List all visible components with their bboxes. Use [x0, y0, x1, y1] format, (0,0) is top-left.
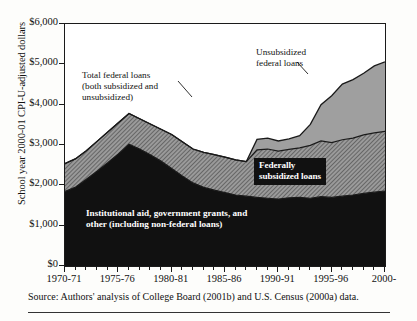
annotation-unsubsidized-line-2: federal loans [256, 58, 306, 69]
source-note: Source: Authors' analysis of College Boa… [28, 291, 359, 302]
annotation-subsidized-line-1: Federally [259, 160, 321, 171]
x-tick-label: 1980-81 [141, 273, 201, 284]
annotation-institutional-aid: Institutional aid, government grants, an… [86, 208, 247, 230]
annotation-unsubsidized-line-1: Unsubsidized [256, 47, 306, 58]
x-tick-label: 1970-71 [34, 273, 94, 284]
y-tick-label: $3,000 [14, 137, 58, 148]
y-axis-title: School year 2000-01 CPI-U-adjusted dolla… [16, 0, 27, 239]
x-tick-label: 2000- [354, 273, 414, 284]
x-tick-label: 1995-96 [301, 273, 361, 284]
annotation-total-federal-line-1: Total federal loans [82, 70, 158, 81]
y-tick-label: $4,000 [14, 97, 58, 108]
leader-line-total-federal [178, 81, 192, 97]
y-tick-label: $6,000 [14, 16, 58, 27]
annotation-institutional-line-1: Institutional aid, government grants, an… [86, 208, 247, 219]
y-tick-label: $0 [14, 258, 58, 269]
annotation-total-federal-line-2: (both subsidized and [82, 81, 158, 92]
source-divider [28, 312, 390, 313]
y-tick-label: $2,000 [14, 177, 58, 188]
annotation-unsubsidized-federal-loans: Unsubsidized federal loans [256, 47, 306, 69]
plot-area: Total federal loans (both subsidized and… [64, 23, 386, 267]
y-tick-label: $1,000 [14, 218, 58, 229]
x-tick-label: 1975-76 [87, 273, 147, 284]
x-tick-label: 1990-91 [247, 273, 307, 284]
annotation-federally-subsidized-loans: Federally subsidized loans [254, 158, 326, 185]
chart-figure: School year 2000-01 CPI-U-adjusted dolla… [0, 0, 417, 321]
annotation-subsidized-line-2: subsidized loans [259, 171, 321, 182]
x-tick-label: 1985-86 [194, 273, 254, 284]
annotation-institutional-line-2: other (including non-federal loans) [86, 219, 247, 230]
y-tick-label: $5,000 [14, 56, 58, 67]
annotation-total-federal-loans: Total federal loans (both subsidized and… [82, 70, 158, 104]
annotation-total-federal-line-3: unsubsidized) [82, 92, 158, 103]
